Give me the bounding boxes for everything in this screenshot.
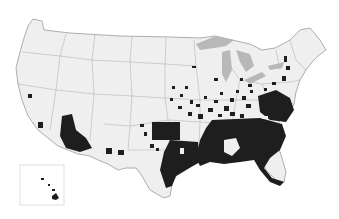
us-county-map <box>0 0 339 219</box>
oklahoma-cluster <box>152 122 180 140</box>
nm-county-1 <box>106 148 112 154</box>
nm-county-2 <box>118 150 124 155</box>
ca-county-2 <box>38 122 43 128</box>
map-canvas <box>0 0 339 219</box>
hawaii-inset <box>20 165 64 205</box>
ca-county <box>28 94 32 98</box>
